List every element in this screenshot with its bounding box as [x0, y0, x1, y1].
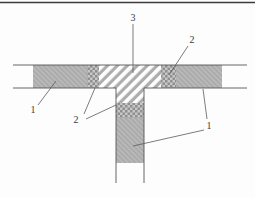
leader-line-2-left-b	[86, 105, 116, 119]
flange-gray-region-right	[176, 65, 222, 88]
diagram-page: 1 2 3 2 1	[0, 0, 255, 197]
stem-stripe-region	[116, 88, 144, 103]
leader-line-1-right-a	[203, 89, 207, 119]
flange-stripe-region-center	[99, 65, 161, 88]
callout-label-2-right: 2	[190, 34, 195, 45]
flange-gray-region-left	[33, 65, 87, 88]
stem-gray-region	[116, 118, 144, 163]
callout-label-3-top: 3	[131, 12, 136, 23]
callout-label-2-left: 2	[74, 114, 79, 125]
flange-checker-region-left	[87, 65, 99, 88]
cross-section-diagram: 1 2 3 2 1	[0, 0, 255, 197]
callout-label-1-left: 1	[31, 104, 36, 115]
leader-line-2-left-a	[84, 88, 95, 114]
stem-checker-region	[116, 103, 144, 118]
callout-label-1-right: 1	[207, 120, 212, 131]
